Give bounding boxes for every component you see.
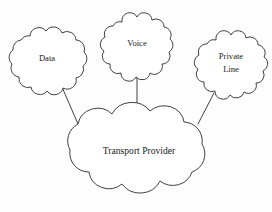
voice-label: Voice bbox=[127, 38, 147, 48]
data-label: Data bbox=[39, 53, 55, 63]
network-diagram: Transport Provider Data Voice Private Li… bbox=[0, 0, 272, 212]
node-private-line[interactable]: Private Line bbox=[194, 31, 267, 99]
edge-private-line-to-transport bbox=[198, 93, 214, 124]
private-line-label-line2: Line bbox=[223, 64, 239, 74]
diagram-canvas: Transport Provider Data Voice Private Li… bbox=[0, 0, 272, 212]
transport-provider-label: Transport Provider bbox=[103, 145, 176, 156]
private-line-label-line1: Private bbox=[219, 51, 244, 61]
node-transport-provider[interactable]: Transport Provider bbox=[68, 102, 205, 193]
node-voice[interactable]: Voice bbox=[100, 13, 173, 81]
edge-data-to-transport bbox=[62, 87, 78, 124]
node-data[interactable]: Data bbox=[9, 27, 87, 95]
